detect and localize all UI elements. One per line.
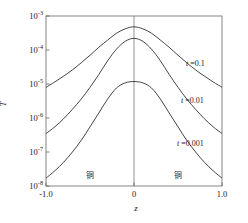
y-tick-label: 10-7 [29,148,43,157]
curve-label-1: t =0.01 [181,97,204,105]
region-label-copper-region-right: 铜 [174,172,182,180]
x-tick-label: 1.0 [217,190,228,199]
y-tick-label: 10-3 [29,12,43,21]
chart-figure: 10-310-410-510-610-710-8 -1.001.0 T z t … [0,0,248,223]
x-axis-title: z [134,203,138,213]
x-tick-label: 0 [132,190,136,199]
curve-label-0: t =0.1 [186,60,205,68]
x-tick-label: -1.0 [39,190,52,199]
y-tick-label: 10-4 [29,46,43,55]
y-tick-label: 10-6 [29,114,43,123]
y-tick-label: 10-5 [29,80,43,89]
curve-label-2: t =0.001 [177,140,204,148]
region-label-copper-region-left: 铜 [86,172,94,180]
y-axis-title: T [0,101,8,106]
